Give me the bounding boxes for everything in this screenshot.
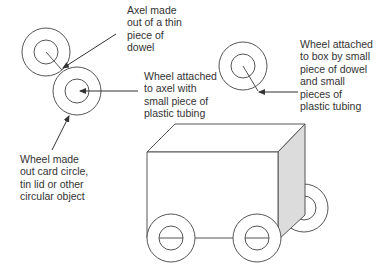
label-axel: Axel made out of a thin piece of dowel bbox=[127, 4, 182, 54]
box-top-face bbox=[147, 124, 305, 152]
wheel-with-axel-top bbox=[22, 28, 70, 76]
label-wheel-attached-to-box: Wheel attached to box by small piece of … bbox=[300, 38, 373, 112]
axel-arrow bbox=[63, 34, 116, 68]
wheel-made-arrow bbox=[52, 116, 69, 150]
front-right-wheel bbox=[233, 214, 281, 262]
label-wheel-attached-to-axel: Wheel attached to axel with small piece … bbox=[144, 70, 217, 120]
label-wheel-made: Wheel made out card circle, tin lid or o… bbox=[20, 153, 88, 203]
wheel-attached-to-box bbox=[219, 42, 267, 91]
front-left-wheel bbox=[147, 214, 195, 262]
